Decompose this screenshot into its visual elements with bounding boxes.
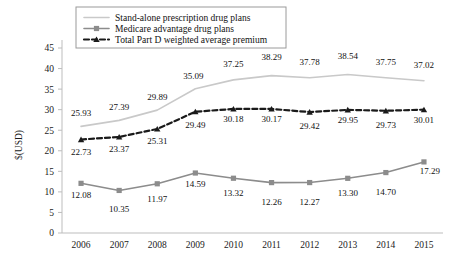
data-label: 30.01	[414, 115, 434, 125]
axes: 0510152025303540452006200720082009201020…	[14, 40, 443, 250]
data-point-marker	[345, 176, 350, 181]
data-label: 35.09	[183, 71, 204, 81]
data-label: 29.95	[338, 115, 359, 125]
line-chart: 0510152025303540452006200720082009201020…	[0, 0, 456, 266]
y-tick-label: 25	[45, 126, 55, 136]
data-label: 12.08	[71, 190, 92, 200]
data-label: 30.17	[261, 114, 282, 124]
data-label: 11.97	[147, 194, 167, 204]
data-label: 37.75	[376, 57, 397, 67]
data-point-marker	[193, 170, 198, 175]
x-tick-label: 2007	[110, 240, 129, 250]
data-label: 10.35	[109, 204, 130, 214]
legend-label-1: Medicare advantage drug plans	[115, 24, 234, 34]
x-tick-label: 2008	[148, 240, 167, 250]
series-line-0	[81, 75, 424, 127]
data-point-marker	[269, 180, 274, 185]
x-tick-label: 2006	[72, 240, 91, 250]
data-label: 12.26	[261, 197, 282, 207]
data-label: 29.73	[376, 120, 397, 130]
data-label: 37.78	[300, 57, 321, 67]
data-label: 22.73	[71, 147, 92, 157]
data-label: 25.31	[147, 136, 167, 146]
data-label: 38.54	[338, 51, 359, 61]
series-lines	[78, 75, 427, 193]
data-label: 37.02	[414, 60, 434, 70]
data-label: 14.59	[185, 179, 206, 189]
x-tick-label: 2011	[262, 240, 281, 250]
series-line-2	[81, 109, 424, 140]
x-tick-label: 2009	[186, 240, 205, 250]
y-tick-label: 5	[49, 208, 54, 218]
x-tick-label: 2012	[300, 240, 319, 250]
data-label: 23.37	[109, 144, 130, 154]
data-label: 27.39	[109, 102, 130, 112]
x-tick-label: 2015	[414, 240, 433, 250]
data-point-marker	[383, 170, 388, 175]
x-tick-label: 2013	[338, 240, 357, 250]
y-tick-label: 40	[45, 64, 55, 74]
data-point-marker	[78, 181, 83, 186]
data-point-marker	[421, 159, 426, 164]
x-tick-label: 2010	[224, 240, 243, 250]
x-tick-label: 2014	[376, 240, 395, 250]
legend-label-0: Stand-alone prescription drug plans	[115, 13, 251, 23]
legend-label-2: Total Part D weighted average premium	[115, 35, 268, 45]
y-tick-label: 30	[45, 105, 55, 115]
y-tick-label: 10	[45, 187, 55, 197]
data-label: 29.89	[147, 92, 168, 102]
data-label: 29.49	[185, 120, 206, 130]
data-label: 30.18	[223, 114, 244, 124]
y-tick-label: 45	[45, 43, 55, 53]
data-point-marker	[231, 176, 236, 181]
data-label: 37.25	[223, 59, 244, 69]
legend-swatch-marker-1	[94, 26, 99, 31]
series-line-1	[81, 162, 424, 191]
data-label: 17.29	[420, 166, 441, 176]
data-label: 38.29	[261, 52, 282, 62]
y-tick-label: 20	[45, 146, 55, 156]
data-label: 13.32	[223, 188, 243, 198]
y-axis-title: $(USD)	[14, 130, 25, 160]
data-label: 12.27	[300, 197, 321, 207]
chart-legend: Stand-alone prescription drug plansMedic…	[76, 7, 286, 48]
y-tick-label: 0	[49, 228, 54, 238]
data-point-marker	[117, 188, 122, 193]
chart-container: 0510152025303540452006200720082009201020…	[0, 0, 456, 266]
data-point-marker	[155, 181, 160, 186]
data-label: 13.30	[338, 188, 359, 198]
data-label: 25.93	[71, 108, 92, 118]
y-tick-label: 35	[45, 85, 55, 95]
data-label: 29.42	[300, 121, 320, 131]
data-label: 14.70	[376, 187, 397, 197]
data-point-marker	[307, 180, 312, 185]
y-tick-label: 15	[45, 167, 55, 177]
